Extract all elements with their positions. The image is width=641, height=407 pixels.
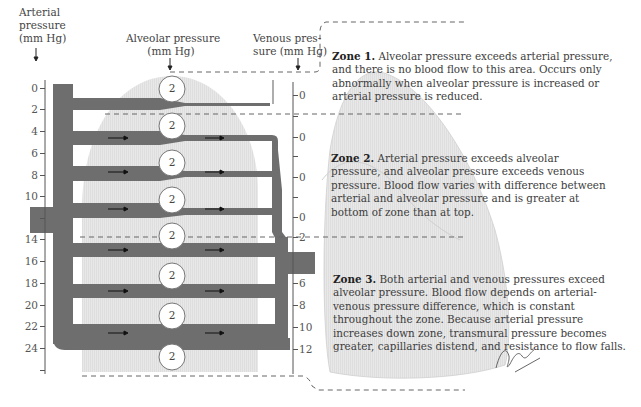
- axis-tick-label: 0: [31, 82, 38, 94]
- axis-tick: [40, 283, 45, 284]
- axis-tick: [40, 326, 45, 327]
- header-line: sure (mm Hg): [253, 45, 319, 58]
- zone-1-title: Zone 1.: [332, 50, 375, 62]
- axis-tick: [40, 196, 45, 197]
- arterial-pressure-header: Arterial pressure (mm Hg): [19, 6, 66, 45]
- axis-tick: [40, 175, 45, 176]
- header-line: pressure: [19, 19, 66, 32]
- axis-tick-label: 2: [299, 231, 306, 243]
- axis-tick-label: 2: [31, 103, 38, 115]
- axis-tick: [40, 218, 45, 219]
- axis-tick-label: 6: [31, 147, 38, 159]
- axis-tick: [293, 95, 298, 96]
- axis-tick-label: 8: [299, 299, 306, 311]
- axis-tick: [293, 305, 298, 306]
- axis-tick-label: 0: [299, 131, 306, 143]
- axis-tick-label: 14: [25, 233, 38, 245]
- axis-tick-label: 10: [299, 321, 312, 333]
- venous-pressure-header: Venous pres- sure (mm Hg): [253, 32, 319, 58]
- axis-tick-label: 0: [299, 89, 306, 101]
- axis-tick: [293, 349, 298, 350]
- axis-tick: [293, 237, 298, 238]
- axis-tick: [40, 261, 45, 262]
- axis-tick: [40, 88, 45, 89]
- alveolar-pressure-header: Alveolar pressure (mm Hg): [126, 32, 216, 58]
- alveolus-pressure-value: 2: [162, 309, 182, 321]
- axis-tick-label: 0: [299, 171, 306, 183]
- axis-tick: [40, 370, 45, 371]
- zone-1-text: Alveolar pressure exceeds arterial press…: [332, 50, 612, 102]
- axis-tick-label: 4: [31, 125, 38, 137]
- header-line: Venous pres-: [253, 32, 319, 45]
- alveolus-pressure-value: 2: [162, 269, 182, 281]
- axis-tick: [40, 153, 45, 154]
- alveolus-pressure-value: 2: [162, 156, 182, 168]
- alveolus-pressure-value: 2: [162, 350, 182, 362]
- axis-tick-label: 12: [299, 343, 312, 355]
- axis-tick: [293, 283, 298, 284]
- alveolus-pressure-value: 2: [162, 229, 182, 241]
- axis-tick: [40, 239, 45, 240]
- axis-tick: [293, 137, 298, 138]
- header-line: Arterial: [19, 6, 66, 19]
- axis-tick-label: 24: [25, 342, 38, 354]
- axis-tick-label: 0: [299, 211, 306, 223]
- header-line: (mm Hg): [19, 32, 66, 45]
- zone-3-title: Zone 3.: [333, 273, 376, 285]
- axis-tick: [293, 156, 298, 157]
- axis-tick-label: 18: [25, 277, 38, 289]
- axis-tick: [40, 131, 45, 132]
- axis-tick: [293, 197, 298, 198]
- axis-tick: [40, 109, 45, 110]
- zone-2-title: Zone 2.: [331, 152, 374, 164]
- axis-tick-label: 8: [31, 169, 38, 181]
- axis-tick: [293, 177, 298, 178]
- zone-3-description: Zone 3. Both arterial and venous pressur…: [333, 273, 633, 353]
- axis-tick-label: 16: [25, 255, 38, 267]
- axis-tick: [40, 348, 45, 349]
- axis-tick: [40, 305, 45, 306]
- axis-tick-label: 6: [299, 277, 306, 289]
- alveolus-pressure-value: 2: [162, 82, 182, 94]
- axis-tick: [293, 327, 298, 328]
- alveolus-pressure-value: 2: [162, 119, 182, 131]
- header-line: Alveolar pressure: [126, 32, 216, 45]
- alveolus-pressure-value: 2: [162, 193, 182, 205]
- zone-3-text: Both arterial and venous pressures excee…: [333, 273, 626, 352]
- axis-tick-label: 10: [25, 190, 38, 202]
- zone-2-description: Zone 2. Arterial pressure exceeds alveol…: [331, 152, 607, 219]
- axis-tick-label: 22: [25, 320, 38, 332]
- axis-tick: [293, 116, 298, 117]
- zone-1-description: Zone 1. Alveolar pressure exceeds arteri…: [332, 50, 628, 104]
- axis-tick-label: 20: [25, 299, 38, 311]
- header-line: (mm Hg): [126, 45, 216, 58]
- axis-tick: [293, 217, 298, 218]
